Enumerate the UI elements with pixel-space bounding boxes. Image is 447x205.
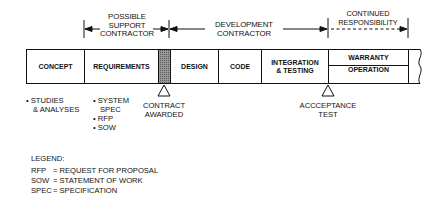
phase-label: CONCEPT — [38, 63, 72, 71]
phase-label: CODE — [230, 63, 250, 71]
phase-code: CODE — [219, 50, 261, 83]
note-line: • RFP — [93, 114, 129, 123]
legend-def: = STATEMENT OF WORK — [53, 176, 143, 185]
phase-operation: OPERATION — [329, 65, 408, 75]
acceptance-test-label: ACCCEPTANCE TEST — [296, 101, 360, 119]
possible-support-label: POSSIBLE SUPPORT CONTRACTOR — [98, 13, 156, 39]
phase-concept: CONCEPT — [27, 50, 84, 83]
legend-abbr: SPEC — [31, 186, 53, 195]
phase-label: INTEGRATION — [271, 59, 319, 67]
legend-item-spec: SPEC= SPECIFICATION — [31, 186, 117, 195]
phase-warranty: WARRANTY — [329, 51, 408, 65]
concept-notes: • STUDIES & ANALYSES — [26, 96, 79, 114]
phase-label: DESIGN — [181, 63, 208, 71]
legend-def: = SPECIFICATION — [53, 186, 117, 195]
label-line: CONTRACTOR — [98, 30, 156, 39]
continued-responsibility-label: CONTINUED RESPONSIBILITY — [334, 10, 402, 27]
label-line: CONTRACTOR — [205, 30, 283, 39]
milestone-line: CONTRACT — [137, 101, 191, 110]
legend-title: LEGEND: — [31, 154, 64, 163]
legend-item-sow: SOW= STATEMENT OF WORK — [31, 176, 143, 185]
requirements-notes: • SYSTEM SPEC • RFP • SOW — [93, 96, 129, 132]
contract-award-marker — [159, 50, 170, 83]
phase-label: WARRANTY — [348, 54, 388, 62]
legend-abbr: RFP — [31, 166, 53, 175]
phase-label: OPERATION — [348, 66, 389, 74]
label-line: RESPONSIBILITY — [334, 19, 402, 28]
legend-abbr: SOW — [31, 176, 53, 185]
note-line: SPEC — [93, 105, 129, 114]
note-line: • SYSTEM — [93, 96, 129, 105]
note-line: & ANALYSES — [26, 105, 79, 114]
phase-integration-testing: INTEGRATION & TESTING — [262, 50, 328, 83]
contract-awarded-label: CONTRACT AWARDED — [137, 101, 191, 119]
phase-design: DESIGN — [171, 50, 218, 83]
phase-requirements: REQUIREMENTS — [85, 50, 158, 83]
milestone-line: ACCCEPTANCE — [296, 101, 360, 110]
milestone-line: AWARDED — [137, 110, 191, 119]
legend-def: = REQUEST FOR PROPOSAL — [53, 166, 158, 175]
milestone-line: TEST — [296, 110, 360, 119]
development-contractor-label: DEVELOPMENT CONTRACTOR — [205, 21, 283, 38]
phase-label: REQUIREMENTS — [93, 63, 149, 71]
phase-label: & TESTING — [276, 67, 313, 75]
legend-item-rfp: RFP= REQUEST FOR PROPOSAL — [31, 166, 158, 175]
note-line: • SOW — [93, 123, 129, 132]
note-line: • STUDIES — [26, 96, 79, 105]
